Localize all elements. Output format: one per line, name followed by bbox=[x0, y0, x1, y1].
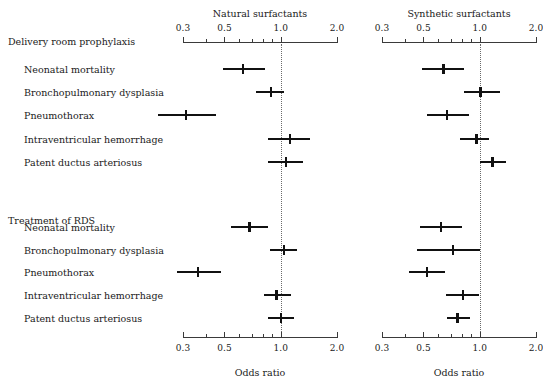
point-estimate-marker bbox=[270, 87, 272, 97]
row-label-0-0: Neonatal mortality bbox=[24, 64, 115, 75]
bottom-left-tick-label: 1.0 bbox=[274, 343, 288, 353]
bottom-left-tick-major bbox=[224, 332, 225, 338]
top-right-tick-minor bbox=[462, 39, 463, 43]
point-estimate-marker bbox=[280, 313, 282, 323]
bottom-left-tick-minor bbox=[239, 334, 240, 338]
top-left-tick-minor bbox=[272, 39, 273, 43]
point-estimate-marker bbox=[442, 64, 444, 74]
confidence-interval-line bbox=[464, 91, 501, 93]
top-right-tick-major bbox=[382, 37, 383, 43]
point-estimate-marker bbox=[462, 290, 464, 300]
section-header-0: Delivery room prophylaxis bbox=[8, 36, 135, 47]
panel-title-synthetic: Synthetic surfactants bbox=[382, 8, 536, 19]
row-label-0-4: Patent ductus arteriosus bbox=[24, 157, 142, 168]
row-label-1-4: Patent ductus arteriosus bbox=[24, 313, 142, 324]
axis-title-right: Odds ratio bbox=[382, 367, 536, 378]
top-right-tick-minor bbox=[438, 39, 439, 43]
row-label-0-1: Bronchopulmonary dysplasia bbox=[24, 87, 164, 98]
point-estimate-marker bbox=[475, 134, 477, 144]
point-estimate-marker bbox=[185, 110, 187, 120]
row-label-0-3: Intraventricular hemorrhage bbox=[24, 134, 163, 145]
top-left-tick-major bbox=[224, 37, 225, 43]
top-right-tick-label: 0.3 bbox=[375, 23, 389, 33]
bottom-right-tick-minor bbox=[462, 334, 463, 338]
bottom-right-tick-major bbox=[480, 332, 481, 338]
point-estimate-marker bbox=[285, 157, 287, 167]
bottom-left-tick-minor bbox=[252, 334, 253, 338]
top-left-tick-minor bbox=[252, 39, 253, 43]
bottom-left-tick-major bbox=[337, 332, 338, 338]
bottom-left-tick-major bbox=[281, 332, 282, 338]
bottom-right-tick-major bbox=[382, 332, 383, 338]
confidence-interval-line bbox=[158, 114, 216, 116]
top-left-tick-minor bbox=[263, 39, 264, 43]
top-right-tick-label: 1.0 bbox=[473, 23, 487, 33]
bottom-right-tick-label: 0.3 bbox=[375, 343, 389, 353]
axis-title-left: Odds ratio bbox=[183, 367, 337, 378]
row-label-1-1: Bronchopulmonary dysplasia bbox=[24, 245, 164, 256]
top-left-tick-label: 0.5 bbox=[217, 23, 231, 33]
bottom-right-tick-minor bbox=[405, 334, 406, 338]
panel-title-natural: Natural surfactants bbox=[183, 8, 337, 19]
row-label-1-0: Neonatal mortality bbox=[24, 222, 115, 233]
top-right-tick-minor bbox=[471, 39, 472, 43]
top-left-tick-major bbox=[183, 37, 184, 43]
point-estimate-marker bbox=[242, 64, 244, 74]
row-label-0-2: Pneumothorax bbox=[24, 110, 94, 121]
top-left-tick-label: 2.0 bbox=[330, 23, 344, 33]
point-estimate-marker bbox=[289, 134, 291, 144]
point-estimate-marker bbox=[479, 87, 481, 97]
bottom-left-tick-minor bbox=[206, 334, 207, 338]
top-right-tick-major bbox=[480, 37, 481, 43]
top-left-tick-major bbox=[281, 37, 282, 43]
point-estimate-marker bbox=[275, 290, 277, 300]
bottom-left-tick-label: 2.0 bbox=[330, 343, 344, 353]
top-right-tick-major bbox=[536, 37, 537, 43]
top-left-tick-major bbox=[337, 37, 338, 43]
confidence-interval-line bbox=[460, 138, 489, 140]
top-right-tick-minor bbox=[451, 39, 452, 43]
top-left-tick-minor bbox=[239, 39, 240, 43]
bottom-right-tick-major bbox=[536, 332, 537, 338]
top-left-tick-label: 0.3 bbox=[176, 23, 190, 33]
bottom-right-tick-minor bbox=[438, 334, 439, 338]
point-estimate-marker bbox=[426, 267, 428, 277]
bottom-left-tick-label: 0.3 bbox=[176, 343, 190, 353]
top-right-tick-label: 2.0 bbox=[529, 23, 543, 33]
top-left-tick-label: 1.0 bbox=[274, 23, 288, 33]
point-estimate-marker bbox=[456, 313, 458, 323]
point-estimate-marker bbox=[491, 157, 493, 167]
row-label-1-3: Intraventricular hemorrhage bbox=[24, 290, 163, 301]
bottom-left-tick-major bbox=[183, 332, 184, 338]
bottom-left-tick-minor bbox=[272, 334, 273, 338]
top-right-tick-label: 0.5 bbox=[416, 23, 430, 33]
bottom-right-tick-label: 1.0 bbox=[473, 343, 487, 353]
point-estimate-marker bbox=[446, 110, 448, 120]
point-estimate-marker bbox=[283, 245, 285, 255]
confidence-interval-line bbox=[447, 317, 470, 319]
row-label-1-2: Pneumothorax bbox=[24, 267, 94, 278]
confidence-interval-line bbox=[417, 249, 480, 251]
top-right-tick-minor bbox=[405, 39, 406, 43]
point-estimate-marker bbox=[440, 222, 442, 232]
bottom-right-tick-label: 0.5 bbox=[416, 343, 430, 353]
point-estimate-marker bbox=[452, 245, 454, 255]
bottom-right-tick-major bbox=[423, 332, 424, 338]
bottom-right-tick-minor bbox=[471, 334, 472, 338]
bottom-right-tick-label: 2.0 bbox=[529, 343, 543, 353]
top-left-tick-minor bbox=[206, 39, 207, 43]
null-reference-line bbox=[281, 44, 283, 332]
bottom-left-tick-minor bbox=[263, 334, 264, 338]
point-estimate-marker bbox=[248, 222, 250, 232]
bottom-left-tick-label: 0.5 bbox=[217, 343, 231, 353]
top-right-tick-major bbox=[423, 37, 424, 43]
point-estimate-marker bbox=[197, 267, 199, 277]
confidence-interval-line bbox=[177, 271, 221, 273]
bottom-right-tick-minor bbox=[451, 334, 452, 338]
